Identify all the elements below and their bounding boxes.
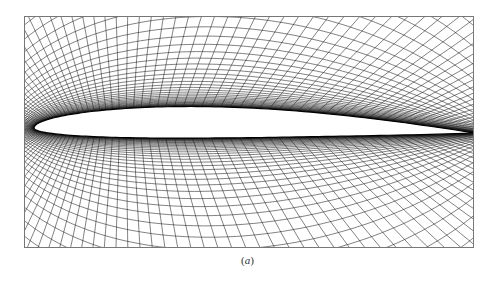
mesh-radial-line <box>390 135 473 231</box>
mesh-radial-line <box>192 138 283 247</box>
mesh-radial-line <box>211 138 323 247</box>
mesh-radial-line <box>174 138 244 247</box>
figure: (a) <box>0 0 495 282</box>
caption-close-paren: ) <box>250 254 254 266</box>
mesh-radial-line <box>24 45 47 120</box>
mesh-radial-line <box>24 136 75 247</box>
airfoil-mesh-plot <box>24 16 473 247</box>
mesh-radial-line <box>166 16 225 107</box>
airfoil-mesh-panel <box>24 16 473 247</box>
mesh-radial-line <box>141 16 166 108</box>
mesh-radial-line <box>38 16 89 112</box>
mesh-radial-line <box>352 136 474 247</box>
mesh-radial-line <box>192 16 283 107</box>
mesh-radial-line <box>411 61 473 124</box>
mesh-radial-line <box>334 136 473 247</box>
mesh-radial-line <box>202 16 304 107</box>
figure-caption: (a) <box>0 254 495 266</box>
mesh-radial-line <box>157 138 204 247</box>
mesh-radial-line <box>360 136 473 247</box>
mesh-radial-line <box>126 138 130 247</box>
mesh-radial-line <box>149 16 185 107</box>
mesh-radial-line <box>383 28 473 120</box>
mesh-radial-line <box>112 16 119 109</box>
mesh-radial-line <box>134 138 148 247</box>
